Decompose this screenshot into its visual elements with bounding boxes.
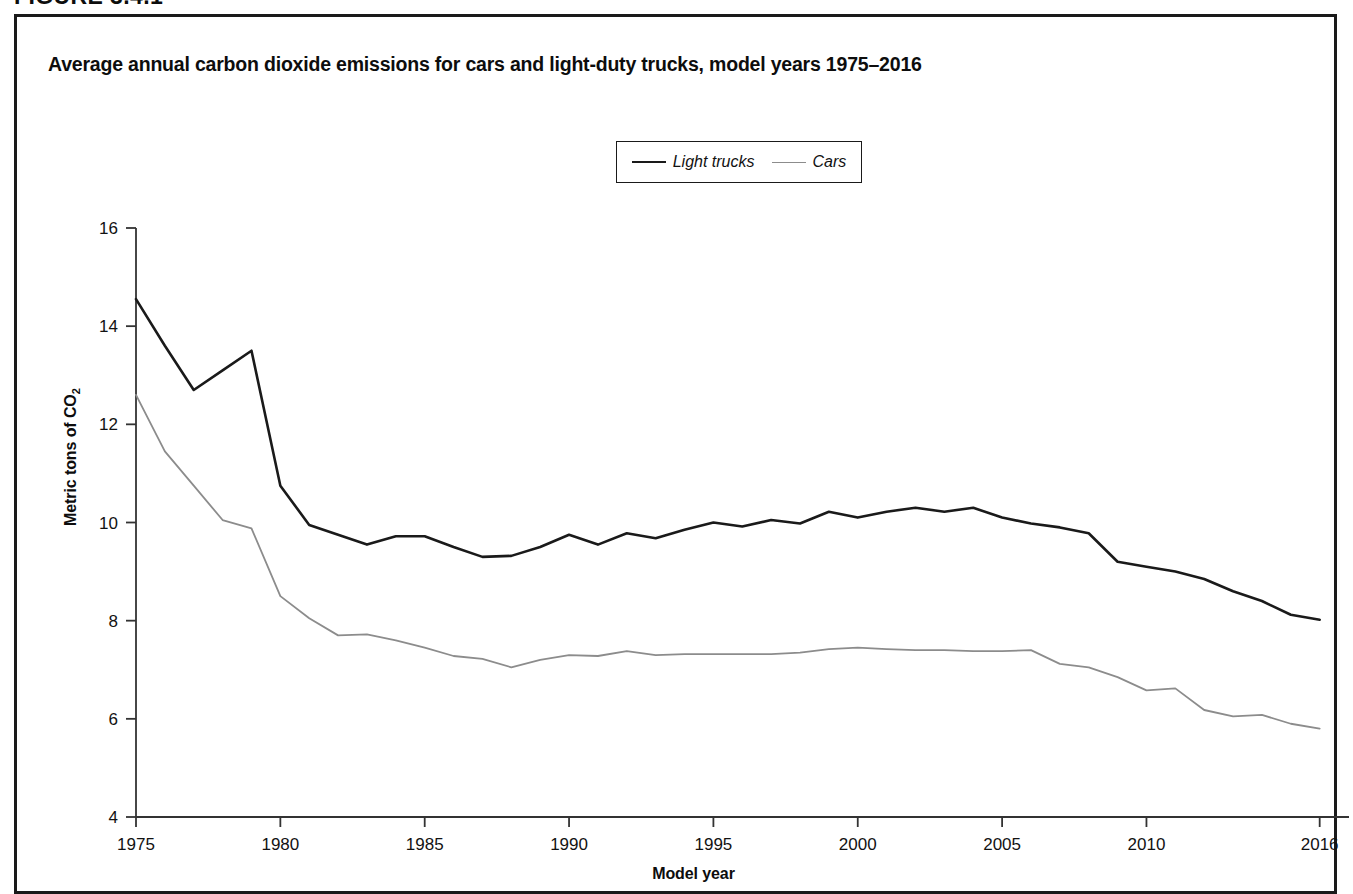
y-tick-label: 14 (99, 317, 118, 336)
figure-frame: Average annual carbon dioxide emissions … (14, 14, 1337, 894)
legend-swatch-cars (772, 162, 806, 163)
y-axis-title-text: Metric tons of CO (62, 394, 79, 526)
series-line-cars (136, 395, 1320, 729)
legend-label-light-trucks: Light trucks (673, 153, 755, 171)
chart-title: Average annual carbon dioxide emissions … (48, 53, 922, 76)
x-tick-label: 2016 (1301, 835, 1339, 854)
figure-number-label: FIGURE 3.4.1 (14, 0, 163, 10)
x-tick-label: 1980 (261, 835, 299, 854)
legend-label-cars: Cars (813, 153, 847, 171)
series-line-light-trucks (136, 299, 1320, 620)
y-tick-label: 12 (99, 415, 118, 434)
y-axis-title: Metric tons of CO2 (62, 357, 82, 557)
y-tick-label: 10 (99, 514, 118, 533)
y-axis-title-subscript: 2 (70, 388, 82, 394)
x-tick-label: 1985 (406, 835, 444, 854)
data-series-group (136, 299, 1320, 728)
x-tick-label: 1975 (117, 835, 155, 854)
x-tick-label: 2000 (839, 835, 877, 854)
y-axis: 46810121416 (99, 219, 136, 827)
x-tick-label: 2010 (1128, 835, 1166, 854)
x-tick-label: 1990 (550, 835, 588, 854)
chart-legend: Light trucks Cars (616, 141, 862, 183)
y-tick-label: 8 (109, 612, 118, 631)
legend-entry-light-trucks: Light trucks (632, 153, 755, 171)
x-tick-label: 2005 (983, 835, 1021, 854)
y-tick-label: 6 (109, 710, 118, 729)
x-axis: 197519801985199019952000200520102016 (117, 817, 1349, 854)
legend-swatch-light-trucks (632, 161, 666, 163)
y-tick-label: 4 (109, 808, 118, 827)
x-tick-label: 1995 (694, 835, 732, 854)
legend-entry-cars: Cars (772, 153, 847, 171)
y-tick-label: 16 (99, 219, 118, 238)
x-axis-title: Model year (17, 865, 1353, 883)
